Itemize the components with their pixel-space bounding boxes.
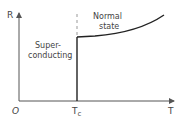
superconducting-label-line1: Super- — [35, 41, 61, 50]
origin-label: O — [12, 106, 19, 116]
normal-state-label-line1: Normal — [93, 12, 122, 21]
superconducting-label-line2: conducting — [28, 51, 72, 60]
x-axis-label: T — [167, 106, 174, 116]
y-axis-label: R — [7, 10, 13, 20]
normal-state-label-line2: state — [99, 22, 119, 31]
tc-label: Tc — [71, 106, 82, 118]
resistance-temperature-diagram: R O Tc T Normal state Super- conducting — [0, 0, 181, 125]
